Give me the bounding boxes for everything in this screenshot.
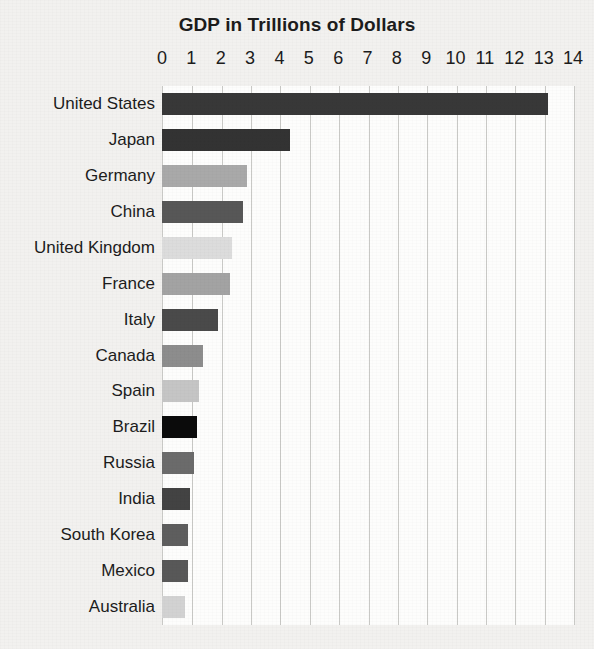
x-tick-label: 13 [534,48,554,69]
x-tick-label: 1 [186,48,196,69]
category-axis-labels: United StatesJapanGermanyChinaUnited Kin… [0,86,155,625]
category-label: United Kingdom [0,238,155,258]
x-tick-label: 14 [563,48,583,69]
x-tick-label: 7 [362,48,372,69]
x-tick-label: 5 [304,48,314,69]
category-label: United States [0,94,155,114]
bar[interactable] [162,416,197,438]
category-label: South Korea [0,525,155,545]
bar[interactable] [162,452,194,474]
category-label: Brazil [0,417,155,437]
bars-layer [162,86,573,625]
x-tick-label: 12 [504,48,524,69]
category-label: Australia [0,597,155,617]
x-tick-label: 8 [392,48,402,69]
category-label: Canada [0,346,155,366]
x-tick-label: 10 [446,48,466,69]
category-label: Germany [0,166,155,186]
bar[interactable] [162,524,188,546]
gridline [574,86,575,625]
x-axis-tick-labels: 01234567891011121314 [0,48,594,72]
bar[interactable] [162,201,243,223]
category-label: Mexico [0,561,155,581]
bar[interactable] [162,345,203,367]
category-label: Spain [0,381,155,401]
category-label: France [0,274,155,294]
bar[interactable] [162,560,188,582]
x-tick-label: 9 [421,48,431,69]
gdp-bar-chart-figure: GDP in Trillions of Dollars 012345678910… [0,0,594,649]
category-label: Japan [0,130,155,150]
bar[interactable] [162,165,247,187]
chart-title: GDP in Trillions of Dollars [0,14,594,36]
bar[interactable] [162,488,190,510]
x-tick-label: 6 [333,48,343,69]
category-label: India [0,489,155,509]
category-label: China [0,202,155,222]
x-tick-label: 11 [476,48,495,69]
x-tick-label: 4 [274,48,284,69]
x-tick-label: 2 [216,48,226,69]
category-label: Italy [0,310,155,330]
bar[interactable] [162,129,290,151]
bar[interactable] [162,273,230,295]
category-label: Russia [0,453,155,473]
bar[interactable] [162,380,199,402]
bar[interactable] [162,93,548,115]
bar[interactable] [162,237,232,259]
x-tick-label: 0 [157,48,167,69]
bar[interactable] [162,309,218,331]
x-tick-label: 3 [245,48,255,69]
bar[interactable] [162,596,185,618]
